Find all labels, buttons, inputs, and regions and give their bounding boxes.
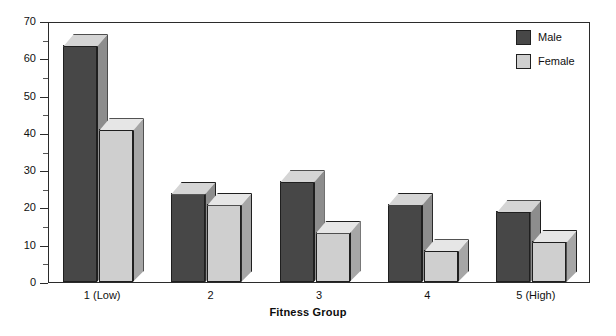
bar-front-face [63,45,97,282]
bar-side-face [133,118,144,282]
y-tick-major [40,97,48,98]
bar-female-group-4 [424,239,469,282]
bar-chart-figure: 010203040506070 1 (Low)2345 (High) Fitne… [0,0,616,336]
y-tick-major [40,283,48,284]
chart-legend: MaleFemale [516,30,575,69]
legend-label: Female [538,56,575,67]
bar-front-face [280,181,314,282]
y-tick-label: 50 [0,91,36,102]
plot-area [48,22,590,283]
legend-item-male: Male [516,30,575,45]
bar-front-face [424,250,458,282]
y-tick-label: 30 [0,165,36,176]
y-tick-major [40,208,48,209]
y-tick-label: 60 [0,53,36,64]
y-tick-major [40,171,48,172]
x-tick-label: 2 [156,289,264,301]
bar-front-face [99,129,133,282]
x-tick-label: 5 (High) [482,289,590,301]
bar-female-group-2 [207,193,252,282]
bar-female-group-3 [316,221,361,282]
x-tick-label: 4 [373,289,481,301]
bar-female-group-5 [532,230,577,282]
x-tick-label: 3 [265,289,373,301]
legend-item-female: Female [516,54,575,69]
y-tick-major [40,246,48,247]
y-tick-major [40,134,48,135]
bar-front-face [207,204,241,282]
bar-front-face [388,204,422,282]
y-tick-label: 40 [0,128,36,139]
y-tick-major [40,22,48,23]
bar-front-face [316,232,350,282]
legend-swatch-female [516,54,531,69]
legend-label: Male [538,32,562,43]
y-tick-label: 0 [0,277,36,288]
y-tick-label: 20 [0,202,36,213]
x-axis-title: Fitness Group [0,306,616,318]
bar-front-face [171,193,205,282]
y-tick-label: 70 [0,16,36,27]
bar-front-face [532,241,566,282]
bar-side-face [241,193,252,282]
legend-swatch-male [516,30,531,45]
bar-female-group-1 [99,118,144,282]
y-tick-label: 10 [0,240,36,251]
bar-front-face [496,211,530,282]
y-tick-major [40,59,48,60]
x-tick-label: 1 (Low) [48,289,156,301]
